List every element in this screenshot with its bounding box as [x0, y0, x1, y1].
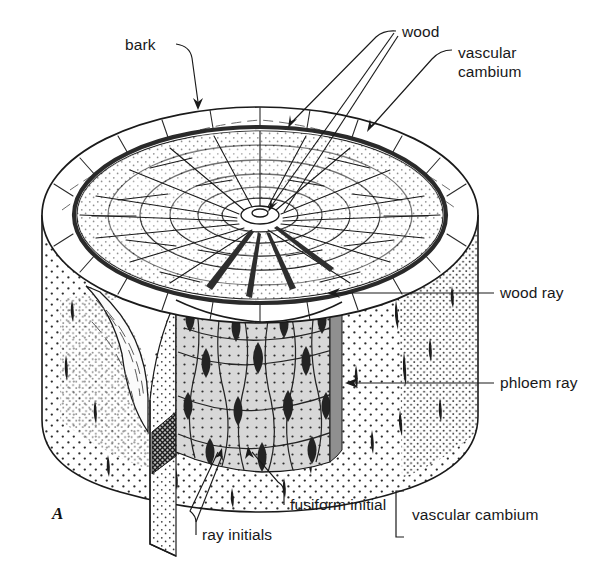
label-wood: wood [401, 23, 439, 40]
vascular-cambium-surface [176, 300, 342, 472]
label-ray-initials: ray initials [202, 526, 272, 543]
label-phloem-ray: phloem ray [500, 374, 578, 391]
cambium-edge-column [330, 300, 342, 462]
panel-label: A [51, 504, 63, 523]
label-fusiform-initial: fusiform initial [290, 496, 386, 513]
stem-top-face [42, 107, 478, 323]
label-wood-ray: wood ray [499, 284, 564, 301]
stem-anatomy-illustration: bark wood vascular cambium wood ray phlo… [0, 0, 596, 579]
label-vascular-cambium-top-line2: cambium [458, 63, 522, 80]
label-vascular-cambium-top-line1: vascular [458, 44, 517, 61]
leader-vascular-cambium-top [372, 50, 452, 126]
leader-wood-a [292, 31, 396, 122]
label-bark: bark [125, 36, 156, 53]
botanical-diagram-figure: bark wood vascular cambium wood ray phlo… [0, 0, 596, 579]
leader-bark [176, 44, 198, 102]
bracket-vascular-cambium [396, 491, 404, 537]
label-vascular-cambium-bracket: vascular cambium [412, 506, 539, 523]
